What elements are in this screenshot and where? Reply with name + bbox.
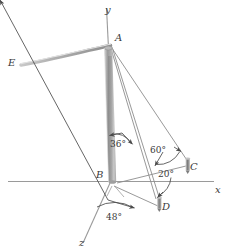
point-label-C: C bbox=[190, 162, 198, 172]
point-label-B: B bbox=[96, 170, 103, 180]
cable-AE bbox=[21, 44, 111, 65]
statics-figure: y x z A B C D E 36° 60° 20° 48° bbox=[0, 0, 227, 251]
angle-label-48: 48° bbox=[106, 213, 122, 222]
ground-projection-lines bbox=[107, 166, 186, 206]
angle-label-60: 60° bbox=[150, 146, 166, 155]
axis-label-y: y bbox=[105, 5, 111, 15]
point-label-A: A bbox=[115, 33, 122, 43]
angle-label-20: 20° bbox=[158, 170, 174, 179]
guy-wires bbox=[111, 48, 188, 201]
angle-label-36: 36° bbox=[110, 140, 126, 149]
angle-arc-20 bbox=[158, 178, 172, 198]
point-label-E: E bbox=[8, 58, 15, 68]
point-label-D: D bbox=[162, 202, 170, 212]
axis-label-z: z bbox=[79, 238, 84, 248]
axis-label-x: x bbox=[215, 185, 221, 195]
pole-BA bbox=[105, 46, 117, 184]
